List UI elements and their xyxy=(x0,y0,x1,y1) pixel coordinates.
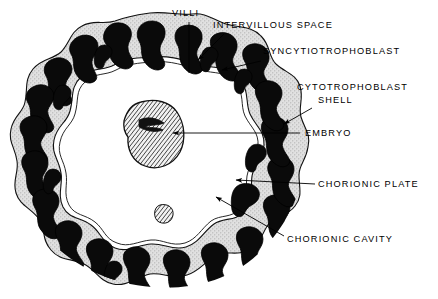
embryo xyxy=(124,100,184,167)
cytotrophoblast-shell-label-line2: SHELL xyxy=(318,95,353,105)
inner-wall-nodule xyxy=(155,205,173,224)
intervillous-space-label: INTERVILLOUS SPACE xyxy=(213,20,333,30)
embryo-label: EMBRYO xyxy=(305,128,352,138)
chorionic-cavity-label: CHORIONIC CAVITY xyxy=(287,234,393,244)
embryo-outline xyxy=(124,100,184,167)
syncytiotrophoblast-label: SYNCYTIOTROPHOBLAST xyxy=(263,46,400,56)
chorionic-plate-label: CHORIONIC PLATE xyxy=(318,179,419,189)
cytotrophoblast-shell-label-line1: CYTOTROPHOBLAST xyxy=(297,82,408,92)
placenta-cross-section-diagram: VILLI INTERVILLOUS SPACE SYNCYTIOTROPHOB… xyxy=(0,0,438,299)
villi-label: VILLI xyxy=(172,8,199,18)
